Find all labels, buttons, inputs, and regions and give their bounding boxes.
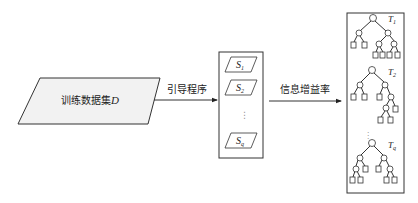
tree-node-icon [370, 15, 377, 22]
trees-container: T1 [347, 13, 404, 193]
info-gain-edge: 信息增益率 [269, 83, 341, 101]
tree-node-icon [353, 166, 359, 172]
leaf-icon [387, 52, 392, 58]
tree-node-icon [369, 67, 376, 74]
tree-node-icon [356, 30, 362, 36]
sample-item-2: S2 [225, 80, 257, 95]
leaf-icon [377, 94, 382, 100]
samples-container: S1 S2 ⋮ Sq [219, 52, 263, 158]
training-dataset-label: 训练数据集D [61, 94, 119, 106]
leaf-icon [373, 52, 378, 58]
tree-label: T1 [388, 14, 396, 25]
tree-node-icon [391, 41, 397, 47]
tree-node-icon [387, 166, 393, 172]
leaf-icon [393, 106, 398, 112]
leaf-icon [362, 94, 367, 100]
tree-2: T2 [351, 67, 398, 124]
leaf-icon [376, 166, 381, 172]
leaf-icon [363, 166, 368, 172]
tree-node-icon [385, 30, 391, 36]
tree-node-icon [369, 140, 376, 147]
tree-label: Tq [388, 140, 396, 151]
info-gain-label: 信息增益率 [280, 83, 330, 95]
tree-node-icon [357, 155, 363, 161]
sample-item-1: S1 [225, 57, 257, 72]
tree-node-icon [376, 41, 382, 47]
tree-1: T1 [351, 14, 400, 58]
tree-label: T2 [388, 67, 396, 78]
tree-node-icon [388, 94, 394, 100]
flow-diagram: 训练数据集D 引导程序 S1 S2 ⋮ Sq 信息增益率 [0, 0, 418, 203]
leaf-icon [350, 177, 355, 183]
leaf-icon [351, 94, 356, 100]
leaf-icon [388, 117, 393, 123]
tree-node-icon [381, 155, 387, 161]
leaf-icon [384, 177, 389, 183]
tree-q: Tq [350, 140, 397, 184]
leaf-icon [380, 52, 385, 58]
leaf-icon [392, 177, 397, 183]
leaf-icon [362, 42, 367, 48]
tree-node-icon [357, 82, 363, 88]
trees-ellipsis: ⋮ [364, 131, 372, 140]
tree-node-icon [382, 82, 388, 88]
samples-ellipsis: ⋮ [240, 110, 249, 120]
leaf-icon [395, 52, 400, 58]
leaf-icon [378, 117, 383, 123]
training-dataset-node: 训练数据集D [18, 78, 160, 124]
leaf-icon [358, 177, 363, 183]
bootstrap-edge: 引导程序 [154, 83, 217, 100]
tree-node-icon [383, 105, 389, 111]
leaf-icon [351, 42, 356, 48]
bootstrap-label: 引导程序 [167, 83, 207, 95]
sample-item-q: Sq [225, 133, 257, 148]
